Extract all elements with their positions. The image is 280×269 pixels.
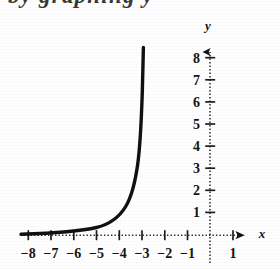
x-tick-label--5: −5 [89,246,104,261]
x-tick-label--1: −1 [180,246,195,261]
y-axis-label: y [203,18,211,33]
y-axis-tick-labels: 1 2 3 4 5 6 7 8 [193,51,200,221]
x-axis-tick-labels: −8 −7 −6 −5 −4 −3 −2 −1 1 [21,246,237,261]
x-tick-label--6: −6 [66,246,81,261]
x-tick-label--8: −8 [21,246,36,261]
y-tick-label-6: 6 [193,95,200,110]
y-tick-label-5: 5 [193,117,200,132]
y-tick-label-2: 2 [193,183,200,198]
y-tick-label-3: 3 [193,161,200,176]
exponential-curve-figure: by graphing y [0,0,280,269]
x-tick-label--2: −2 [157,246,172,261]
y-tick-label-7: 7 [193,73,200,88]
x-tick-label--4: −4 [112,246,127,261]
x-tick-label-1: 1 [230,246,237,261]
coordinate-plot: −8 −7 −6 −5 −4 −3 −2 −1 1 1 2 3 4 5 6 7 … [0,0,280,269]
exponential-curve-path [21,48,143,235]
y-tick-label-8: 8 [193,51,200,66]
x-axis-label: x [258,226,266,241]
x-tick-label--3: −3 [135,246,150,261]
y-tick-label-4: 4 [193,139,200,154]
y-tick-label-1: 1 [193,205,200,220]
x-tick-label--7: −7 [44,246,59,261]
